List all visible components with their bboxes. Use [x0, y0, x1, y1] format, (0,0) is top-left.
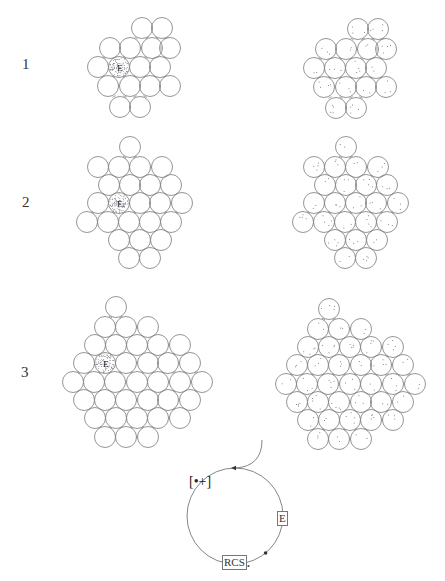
cell-circle — [150, 57, 171, 78]
cell-circle — [98, 212, 119, 233]
cell-circle — [95, 427, 116, 448]
row-label-2: 2 — [22, 194, 30, 211]
cell-circle — [88, 193, 109, 214]
cell-circle — [192, 372, 213, 393]
cell-circle — [180, 353, 201, 374]
cell-circle — [158, 390, 179, 411]
cell-circle — [130, 157, 151, 178]
cell-circle — [308, 319, 329, 340]
cell-circle — [340, 374, 361, 395]
cell-circle — [138, 317, 159, 338]
cell-circle — [340, 337, 361, 358]
cell-circle — [298, 410, 319, 431]
cell-circle — [325, 58, 346, 79]
cell-circle — [304, 193, 325, 214]
cell-circle — [351, 429, 372, 450]
cell-circle — [304, 157, 325, 178]
cell-circle — [140, 76, 161, 97]
panel-left-2: E — [77, 137, 193, 269]
cell-circle — [109, 157, 130, 178]
cell-circle — [351, 392, 372, 413]
cell-circle — [308, 429, 329, 450]
cell-circle — [116, 317, 137, 338]
cell-circle — [148, 408, 169, 429]
cell-circle — [152, 18, 173, 39]
cell-circle — [361, 337, 382, 358]
cell-circle — [63, 372, 84, 393]
cell-circle — [138, 427, 159, 448]
cycle-diagram — [187, 440, 283, 564]
cell-circle — [116, 353, 137, 374]
cell-circle — [356, 175, 377, 196]
cell-circle — [106, 408, 127, 429]
cell-circle — [105, 372, 126, 393]
cell-circle — [120, 38, 141, 59]
panel-left-3: E — [63, 297, 213, 448]
cell-circle — [393, 355, 414, 376]
cell-circle — [116, 390, 137, 411]
cell-circle — [95, 317, 116, 338]
cell-circle — [130, 97, 151, 118]
cell-circle — [99, 175, 120, 196]
cell-circle — [329, 319, 350, 340]
cell-circle — [346, 98, 367, 119]
cell-circle — [85, 408, 106, 429]
cell-circle — [276, 374, 297, 395]
panel-right-2 — [293, 137, 409, 269]
row-label-1: 1 — [22, 56, 30, 73]
cell-circle — [160, 76, 181, 97]
diagram-canvas: EEE — [0, 0, 445, 581]
cell-circle — [383, 374, 404, 395]
cell-circle — [346, 230, 367, 251]
cell-circle — [383, 337, 404, 358]
cell-circle — [377, 175, 398, 196]
cell-circle — [151, 230, 172, 251]
panel-right-3 — [276, 299, 426, 450]
cell-circle — [127, 408, 148, 429]
row-label-3: 3 — [21, 364, 29, 381]
cell-circle — [356, 248, 377, 269]
cell-circle — [346, 157, 367, 178]
cell-circle — [308, 355, 329, 376]
cell-circle — [84, 372, 105, 393]
cell-circle — [361, 374, 382, 395]
cell-circle — [170, 372, 191, 393]
cell-circle — [132, 18, 153, 39]
cell-circle — [161, 212, 182, 233]
cell-circle — [150, 193, 171, 214]
enzyme-site-marker: E — [117, 63, 123, 73]
cell-circle — [336, 175, 357, 196]
cell-circle — [348, 19, 369, 40]
cell-circle — [130, 193, 151, 214]
cell-circle — [318, 374, 339, 395]
cell-circle — [383, 410, 404, 431]
cell-circle — [170, 408, 191, 429]
product-label-box: RCS — [222, 555, 247, 570]
cell-circle — [393, 392, 414, 413]
cell-circle — [119, 248, 140, 269]
cell-circle — [356, 212, 377, 233]
cell-circle — [100, 38, 121, 59]
cell-circle — [366, 193, 387, 214]
arrowhead-icon — [231, 466, 236, 470]
cell-circle — [329, 355, 350, 376]
cell-circle — [148, 335, 169, 356]
cell-circle — [130, 230, 151, 251]
cell-circle — [172, 193, 193, 214]
cell-circle — [368, 19, 389, 40]
cell-circle — [85, 335, 106, 356]
cell-circle — [77, 212, 98, 233]
cell-circle — [340, 410, 361, 431]
cell-circle — [329, 429, 350, 450]
cell-circle — [148, 372, 169, 393]
cell-circle — [329, 392, 350, 413]
cell-circle — [315, 175, 336, 196]
cell-circle — [319, 337, 340, 358]
panel-right-1 — [304, 19, 397, 119]
cell-circle — [120, 175, 141, 196]
cell-circle — [336, 39, 357, 60]
cell-circle — [127, 335, 148, 356]
cell-circle — [287, 355, 308, 376]
cell-circle — [298, 337, 319, 358]
cell-circle — [371, 355, 392, 376]
